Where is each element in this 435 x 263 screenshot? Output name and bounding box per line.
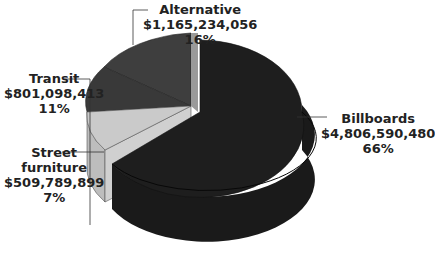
label-alternative: Alternative $1,165,234,056 16%: [143, 2, 257, 47]
label-street-furniture: Street furniture $509,789,899 7%: [4, 145, 104, 205]
label-transit: Transit $801,098,413 11%: [4, 71, 104, 116]
label-billboards: Billboards $4,806,590,480 66%: [321, 111, 435, 156]
